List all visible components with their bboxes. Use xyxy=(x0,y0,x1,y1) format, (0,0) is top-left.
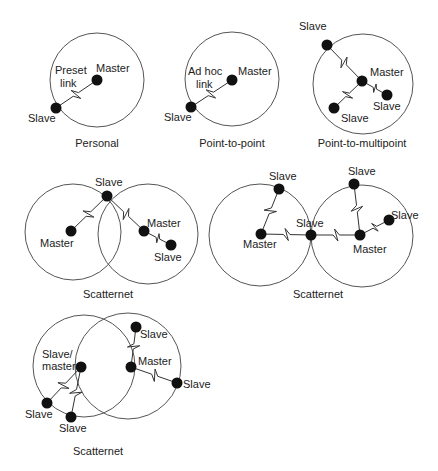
master-label: Master xyxy=(40,237,74,249)
radio-link-icon xyxy=(71,196,107,231)
diagram-scatternet-4: SlaveMasterSlaveMasterSlaveSlaveScattern… xyxy=(209,165,419,300)
slave-label: Slave xyxy=(25,408,53,420)
slave-node-icon xyxy=(274,184,285,195)
radio-link-icon xyxy=(47,367,81,403)
diagram-caption: Point-to-point xyxy=(199,137,264,149)
diagram-caption: Point-to-multipoint xyxy=(318,137,407,149)
slave-label: Slave xyxy=(28,112,56,124)
slave-node-icon xyxy=(329,103,340,114)
slave-label: Slave xyxy=(373,100,401,112)
master-label: Master xyxy=(243,238,277,250)
master-node-icon xyxy=(66,226,77,237)
link-note: Preset xyxy=(55,64,87,76)
slave-label: Slave xyxy=(95,176,123,188)
radio-link-icon xyxy=(311,229,360,241)
slave-label: Slave xyxy=(348,165,376,177)
diagram-scatternet-5: Slave/masterSlaveSlaveMasterSlaveSlaveSc… xyxy=(25,313,211,457)
master-label: Master xyxy=(353,243,387,255)
slave-label: Slave xyxy=(59,422,87,434)
slave-label: Slave xyxy=(154,251,182,263)
slave-label: Slave xyxy=(269,170,297,182)
slave-node-icon xyxy=(322,40,333,51)
master-label: Master xyxy=(147,217,181,229)
master-node-icon xyxy=(92,75,103,86)
slave-label: Slave xyxy=(296,217,324,229)
master-label: Master xyxy=(138,355,172,367)
master-node-icon xyxy=(227,75,238,86)
slave-node-icon xyxy=(306,230,317,241)
link-note: Ad hoc xyxy=(188,65,223,77)
diagram-caption: Personal xyxy=(75,137,118,149)
piconet-scatternet-figure: MasterSlavePresetlinkPersonalMasterSlave… xyxy=(0,0,438,471)
slave-label: Slave xyxy=(299,20,327,32)
slave-label: Slave xyxy=(164,111,192,123)
slave-master-label-line2: master xyxy=(42,360,76,372)
diagram-caption: Scatternet xyxy=(73,445,123,457)
master-node-icon xyxy=(355,230,366,241)
slave-node-icon xyxy=(66,412,77,423)
master-node-icon xyxy=(357,76,368,87)
radio-link-icon xyxy=(107,196,144,231)
link-note: link xyxy=(60,77,77,89)
radio-link-icon xyxy=(327,45,362,81)
master-label: Master xyxy=(370,66,404,78)
master-node-icon xyxy=(126,362,137,373)
slave-label: Slave xyxy=(391,209,419,221)
master-label: Master xyxy=(96,62,130,74)
radio-link-icon xyxy=(261,189,279,234)
radio-link-icon xyxy=(334,81,362,108)
radio-link-icon xyxy=(351,184,362,235)
slave-node-icon xyxy=(102,191,113,202)
diagram-personal-0: MasterSlavePresetlinkPersonal xyxy=(28,33,144,149)
slave-node-icon xyxy=(172,378,183,389)
diagram-caption: Scatternet xyxy=(83,288,133,300)
diagram-scatternet-3: SlaveMasterMasterSlaveScatternet xyxy=(25,176,198,300)
slave-node-icon xyxy=(166,240,177,251)
slave-label: Slave xyxy=(183,378,211,390)
slave-node-icon xyxy=(382,90,393,101)
diagram-point-to-point-1: MasterSlaveAd hoclinkPoint-to-point xyxy=(164,32,279,149)
figure-svg: MasterSlavePresetlinkPersonalMasterSlave… xyxy=(0,0,438,471)
master-label: Master xyxy=(238,65,272,77)
slave-label: Slave xyxy=(140,328,168,340)
slave-label: Slave xyxy=(341,112,369,124)
slave-master-node-icon xyxy=(76,362,87,373)
diagram-point-to-multipoint-2: MasterSlaveSlaveSlavePoint-to-multipoint xyxy=(299,20,413,149)
diagram-caption: Scatternet xyxy=(293,288,343,300)
slave-node-icon xyxy=(349,179,360,190)
slave-master-label: Slave/ xyxy=(42,348,74,360)
radio-link-icon xyxy=(131,367,177,383)
link-note: link xyxy=(196,78,213,90)
slave-node-icon xyxy=(42,398,53,409)
